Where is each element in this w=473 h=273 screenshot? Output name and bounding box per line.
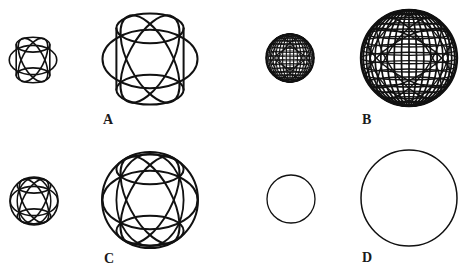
panel-d-label: D <box>362 250 372 265</box>
sphere-comparison-figure: A B C D <box>0 0 473 273</box>
outline-circle <box>361 150 457 246</box>
sphere-d-large <box>361 150 457 246</box>
sphere-a-large <box>102 6 197 111</box>
panel-b: B <box>261 0 466 127</box>
sphere-d-small <box>267 175 315 223</box>
panel-a-label: A <box>103 112 114 127</box>
panel-b-label: B <box>362 112 371 127</box>
outline-circle <box>267 175 315 223</box>
panel-c: C <box>10 147 198 266</box>
sphere-c-large <box>102 147 198 252</box>
tilted-ring-right <box>108 6 191 111</box>
panel-a: A <box>9 6 197 127</box>
panel-c-label: C <box>104 251 114 266</box>
sphere-a-small <box>9 34 57 87</box>
tilted-ring-left <box>108 6 191 111</box>
tilted-ring-left <box>108 147 191 252</box>
panel-d: D <box>267 150 457 265</box>
sphere-b-small <box>261 28 318 88</box>
sphere-b-large <box>352 0 466 118</box>
sphere-c-small <box>10 175 58 228</box>
tilted-ring-right <box>108 147 191 252</box>
